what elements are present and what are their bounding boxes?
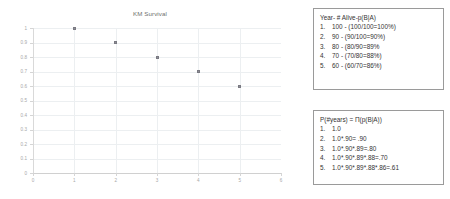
x-axis-tick-label: 1 [67, 178, 81, 183]
y-axis-tick-label: 0.2 [5, 142, 27, 147]
list-item-number: 3. [320, 144, 332, 154]
product-box-list: 1.1.02.1.0*.90= .903.1.0*.90*.89=.804.1.… [320, 124, 438, 172]
y-axis-tick-mark [30, 43, 33, 44]
y-axis-tick-mark [30, 115, 33, 116]
y-axis-tick-mark [30, 101, 33, 102]
list-item-text: 70 - (70/80=88%) [332, 51, 438, 61]
x-axis-tick-label: 4 [191, 178, 205, 183]
data-point [156, 56, 159, 59]
km-survival-chart: KM Survival 10.90.80.70.60.50.40.30.20.1… [0, 0, 300, 199]
gridline-vertical [116, 28, 117, 173]
x-axis-tick-mark [281, 173, 282, 176]
y-axis-tick-label: 0.3 [5, 127, 27, 132]
data-point [197, 70, 200, 73]
list-item-text: 1.0*.90*.89=.80 [332, 144, 438, 154]
x-axis-tick-mark [198, 173, 199, 176]
list-item-text: 90 - (90/100=90%) [332, 32, 438, 42]
list-item: 2.90 - (90/100=90%) [320, 32, 438, 42]
list-item-number: 2. [320, 134, 332, 144]
list-item-number: 3. [320, 42, 332, 52]
data-point [114, 41, 117, 44]
list-item: 1.100 - (100/100=100%) [320, 22, 438, 32]
y-axis-tick-label: 0.5 [5, 98, 27, 103]
y-axis-tick-mark [30, 144, 33, 145]
x-axis-tick-label: 6 [274, 178, 288, 183]
y-axis-tick-label: 0.7 [5, 69, 27, 74]
list-item-text: 80 - (80/90=89% [332, 42, 438, 52]
list-item-number: 5. [320, 61, 332, 71]
y-axis-tick-label: 0 [5, 171, 27, 176]
x-axis-tick-mark [33, 173, 34, 176]
data-point [73, 27, 76, 30]
conditional-box-header: Year- # Alive-p(B|A) [320, 13, 438, 22]
list-item-number: 2. [320, 32, 332, 42]
data-point [238, 85, 241, 88]
gridline-vertical [74, 28, 75, 173]
list-item-text: 1.0*.90= .90 [332, 134, 438, 144]
conditional-probability-box: Year- # Alive-p(B|A) 1.100 - (100/100=10… [313, 8, 444, 90]
list-item-number: 1. [320, 124, 332, 134]
plot-area [33, 28, 281, 173]
y-axis-tick-mark [30, 28, 33, 29]
list-item: 3.80 - (80/90=89% [320, 42, 438, 52]
list-item: 4.1.0*.90*.89*.88=.70 [320, 153, 438, 163]
list-item: 4.70 - (70/80=88%) [320, 51, 438, 61]
list-item-text: 1.0*.90*.89*.88*.86=.61 [332, 163, 438, 173]
chart-title: KM Survival [0, 10, 300, 17]
y-axis-tick-mark [30, 86, 33, 87]
list-item-number: 4. [320, 153, 332, 163]
y-axis-tick-label: 0.1 [5, 156, 27, 161]
x-axis-tick-label: 5 [233, 178, 247, 183]
y-axis-tick-mark [30, 57, 33, 58]
list-item: 5.1.0*.90*.89*.88*.86=.61 [320, 163, 438, 173]
x-axis-tick-mark [157, 173, 158, 176]
list-item-number: 4. [320, 51, 332, 61]
list-item-text: 100 - (100/100=100%) [332, 22, 438, 32]
y-axis-tick-label: 0.9 [5, 40, 27, 45]
list-item-number: 1. [320, 22, 332, 32]
conditional-box-list: 1.100 - (100/100=100%)2.90 - (90/100=90%… [320, 22, 438, 70]
list-item: 1.1.0 [320, 124, 438, 134]
y-axis-tick-mark [30, 130, 33, 131]
list-item-text: 1.0 [332, 124, 438, 134]
x-axis-tick-mark [74, 173, 75, 176]
x-axis-tick-mark [116, 173, 117, 176]
y-axis-tick-label: 0.6 [5, 84, 27, 89]
list-item-text: 1.0*.90*.89*.88=.70 [332, 153, 438, 163]
x-axis-tick-label: 0 [26, 178, 40, 183]
x-axis-tick-label: 2 [109, 178, 123, 183]
list-item: 2.1.0*.90= .90 [320, 134, 438, 144]
y-axis-tick-label: 1 [5, 26, 27, 31]
list-item: 3.1.0*.90*.89=.80 [320, 144, 438, 154]
gridline-vertical [240, 28, 241, 173]
y-axis-tick-mark [30, 159, 33, 160]
x-axis-tick-label: 3 [150, 178, 164, 183]
x-axis-tick-mark [240, 173, 241, 176]
gridline-vertical [198, 28, 199, 173]
list-item-text: 60 - (60/70=86%) [332, 61, 438, 71]
cumulative-probability-box: P(#years) = Π(p(B|A)) 1.1.02.1.0*.90= .9… [313, 110, 444, 185]
y-axis-tick-mark [30, 72, 33, 73]
product-box-header: P(#years) = Π(p(B|A)) [320, 115, 438, 124]
list-item-number: 5. [320, 163, 332, 173]
list-item: 5.60 - (60/70=86%) [320, 61, 438, 71]
y-axis-tick-label: 0.4 [5, 113, 27, 118]
gridline-vertical [157, 28, 158, 173]
y-axis-tick-label: 0.8 [5, 55, 27, 60]
y-axis-line [33, 28, 34, 174]
